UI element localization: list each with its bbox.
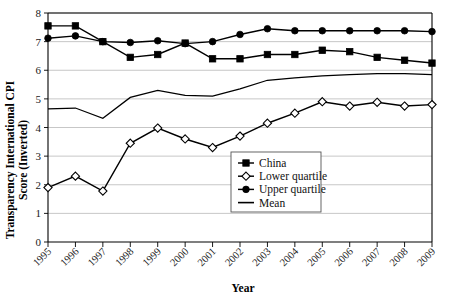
y-tick-label: 1: [36, 207, 42, 219]
x-tick-label: 1997: [86, 246, 109, 269]
y-axis-title-line-1: Transparency International CPI: [4, 80, 17, 239]
series-mean: [48, 74, 432, 119]
cpi-line-chart: 012345678 199519961997199819992000200120…: [0, 0, 450, 301]
x-tick-label: 1998: [113, 246, 136, 269]
y-tick-label: 8: [36, 7, 42, 19]
data-point-marker-circle: [264, 25, 271, 32]
data-point-marker-circle: [374, 27, 381, 34]
data-point-marker-circle: [72, 33, 79, 40]
legend-item-label: China: [259, 157, 286, 169]
x-tick-label: 2004: [278, 245, 301, 268]
x-tick-label: 1999: [141, 246, 164, 269]
x-tick-label: 1995: [31, 246, 54, 269]
data-point-marker-circle: [401, 27, 408, 34]
data-point-marker-circle: [45, 35, 52, 42]
data-point-marker-diamond: [126, 139, 134, 147]
y-tick-label: 3: [36, 150, 42, 162]
data-point-marker-square: [155, 51, 161, 57]
data-point-marker-diamond: [346, 102, 354, 110]
data-point-marker-diamond: [236, 132, 244, 140]
data-point-marker-circle: [429, 28, 436, 35]
data-point-marker-circle: [292, 27, 299, 34]
x-tick-label: 2001: [195, 246, 218, 269]
data-point-marker-circle: [127, 39, 134, 46]
x-tick-label: 2007: [360, 246, 383, 269]
x-tick-label: 2009: [415, 246, 438, 269]
data-point-marker-diamond: [208, 143, 216, 151]
data-point-marker-square: [237, 56, 243, 62]
data-point-marker-diamond: [400, 102, 408, 110]
chart-figure: 012345678 199519961997199819992000200120…: [0, 0, 450, 301]
data-point-marker-circle: [346, 27, 353, 34]
data-point-marker-diamond: [373, 98, 381, 106]
data-point-marker-square: [127, 54, 133, 60]
data-point-marker-diamond: [99, 187, 107, 195]
x-tick-label: 2003: [250, 246, 273, 269]
data-point-marker-circle: [154, 37, 161, 44]
data-point-marker-square: [374, 54, 380, 60]
data-point-marker-square: [209, 56, 215, 62]
y-tick-label: 2: [36, 179, 42, 191]
x-axis-tick-labels: 1995199619971998199920002001200220032004…: [31, 245, 438, 268]
legend-item-label: Mean: [259, 197, 285, 209]
data-point-marker-square: [243, 160, 249, 166]
data-point-marker-square: [401, 57, 407, 63]
data-point-marker-square: [45, 23, 51, 29]
data-point-marker-diamond: [428, 101, 436, 109]
data-point-marker-diamond: [154, 124, 162, 132]
data-point-marker-circle: [237, 31, 244, 38]
x-tick-label: 2005: [305, 246, 328, 269]
data-point-marker-square: [264, 51, 270, 57]
y-axis-title: Transparency International CPI Score (In…: [4, 80, 30, 239]
y-axis-tick-labels: 012345678: [36, 7, 42, 248]
data-point-marker-circle: [243, 186, 250, 193]
x-tick-label: 2006: [333, 246, 356, 269]
chart-legend: ChinaLower quartileUpper quartileMean: [231, 152, 327, 212]
y-tick-label: 6: [36, 64, 42, 76]
data-point-marker-circle: [209, 38, 216, 45]
y-axis-title-line-2: Score (Inverted): [17, 120, 30, 200]
data-point-marker-circle: [319, 27, 326, 34]
x-tick-label: 2008: [387, 246, 410, 269]
series-upper-quartile: [45, 25, 436, 46]
legend-item-label: Lower quartile: [259, 170, 327, 183]
x-tick-label: 1996: [58, 246, 81, 269]
y-tick-label: 4: [36, 122, 42, 134]
data-point-marker-diamond: [181, 135, 189, 143]
data-point-marker-diamond: [291, 109, 299, 117]
data-point-marker-square: [292, 51, 298, 57]
series-line: [48, 74, 432, 119]
data-point-marker-square: [72, 23, 78, 29]
data-point-marker-diamond: [71, 172, 79, 180]
x-axis-title: Year: [232, 282, 255, 294]
y-tick-label: 0: [36, 236, 42, 248]
data-point-marker-square: [429, 60, 435, 66]
legend-item-label: Upper quartile: [259, 183, 326, 196]
data-point-marker-circle: [100, 38, 107, 45]
data-point-marker-square: [319, 47, 325, 53]
y-tick-label: 7: [36, 36, 42, 48]
x-tick-label: 2002: [223, 246, 246, 269]
data-point-marker-square: [347, 48, 353, 54]
x-tick-label: 2000: [168, 246, 191, 269]
data-point-marker-circle: [182, 40, 189, 47]
data-point-marker-diamond: [263, 119, 271, 127]
y-tick-label: 5: [36, 93, 42, 105]
y-axis-ticks: [44, 13, 48, 242]
